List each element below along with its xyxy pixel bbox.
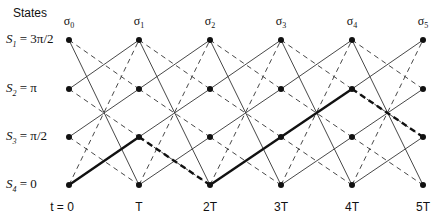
state-node [420, 86, 426, 92]
state-node [136, 86, 142, 92]
state-node [66, 37, 72, 43]
time-label: t = 0 [50, 200, 74, 214]
state-node [278, 86, 284, 92]
state-node [278, 182, 284, 188]
state-label: S4 = 0 [6, 176, 37, 194]
state-node [66, 86, 72, 92]
time-label: 3T [274, 200, 288, 214]
state-node [349, 134, 355, 140]
state-node [207, 37, 213, 43]
state-node [420, 37, 426, 43]
state-node [207, 134, 213, 140]
state-node [349, 86, 355, 92]
state-node [207, 182, 213, 188]
time-label: T [135, 200, 142, 214]
state-node [278, 134, 284, 140]
sigma-label: σ0 [64, 14, 74, 30]
sigma-label: σ4 [347, 14, 357, 30]
state-node [66, 134, 72, 140]
state-node [278, 37, 284, 43]
sigma-label: σ1 [134, 14, 144, 30]
trellis-diagram: States S1 = 3π/2S2 = πS3 = π/2S4 = 0 σ0σ… [0, 0, 438, 224]
state-label: S2 = π [6, 80, 37, 98]
state-label: S3 = π/2 [6, 128, 47, 146]
state-label: S1 = 3π/2 [6, 31, 54, 49]
state-node [349, 37, 355, 43]
state-node [66, 182, 72, 188]
time-label: 5T [416, 200, 430, 214]
state-node [136, 134, 142, 140]
sigma-label: σ3 [276, 14, 286, 30]
trellis-lines [0, 0, 438, 224]
sigma-label: σ2 [205, 14, 215, 30]
sigma-label: σ5 [418, 14, 428, 30]
state-node [420, 134, 426, 140]
state-node [420, 182, 426, 188]
state-node [207, 86, 213, 92]
state-node [136, 182, 142, 188]
state-node [136, 37, 142, 43]
state-node [349, 182, 355, 188]
time-label: 2T [203, 200, 217, 214]
states-title: States [13, 6, 47, 20]
time-label: 4T [345, 200, 359, 214]
